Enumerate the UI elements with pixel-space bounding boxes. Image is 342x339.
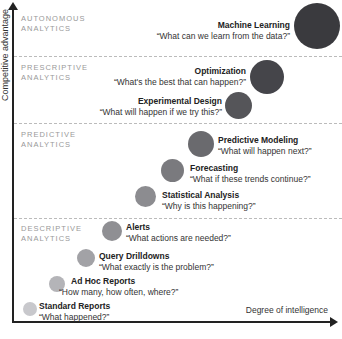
zone-divider [14, 56, 342, 57]
zone-divider [14, 218, 342, 219]
y-axis [12, 6, 14, 322]
stage-question: “How many, how often, where?” [59, 287, 178, 298]
zone-predictive: PREDICTIVEANALYTICS [21, 130, 76, 150]
stage-dot-forecasting [161, 159, 184, 182]
stage-title: Predictive Modeling [218, 135, 312, 146]
zone-label: AUTONOMOUS [21, 14, 85, 24]
stage-question: “What's the best that can happen?” [114, 77, 246, 88]
stage-ad-hoc-reports: Ad Hoc Reports“How many, how often, wher… [59, 276, 178, 298]
stage-experimental-design: Experimental Design“What will happen if … [100, 96, 222, 118]
stage-question: “What can we learn from the data?” [157, 31, 290, 42]
stage-forecasting: Forecasting“What if these trends continu… [190, 163, 310, 185]
stage-question: “What exactly is the problem?” [99, 262, 214, 273]
stage-dot-optimization [250, 60, 284, 94]
x-axis-label: Degree of intelligence [246, 305, 328, 315]
zone-label: ANALYTICS [21, 73, 88, 83]
stage-dot-query-drilldowns [77, 249, 95, 267]
stage-dot-predictive-modeling [188, 131, 214, 157]
zone-label: ANALYTICS [21, 234, 82, 244]
stage-statistical-analysis: Statistical Analysis“Why is this happeni… [162, 190, 256, 212]
stage-optimization: Optimization“What's the best that can ha… [114, 66, 246, 88]
stage-title: Alerts [126, 222, 231, 233]
zone-label: ANALYTICS [21, 24, 85, 34]
stage-dot-machine-learning [294, 3, 340, 49]
stage-dot-alerts [102, 221, 122, 241]
stage-title: Experimental Design [100, 96, 222, 107]
zone-autonomous: AUTONOMOUSANALYTICS [21, 14, 85, 34]
stage-question: “What actions are needed?” [126, 233, 231, 244]
stage-title: Ad Hoc Reports [71, 276, 178, 287]
stage-machine-learning: Machine Learning“What can we learn from … [157, 20, 290, 42]
y-axis-label: Competitive advantage [0, 0, 10, 110]
stage-question: “What will happen next?” [218, 146, 312, 157]
stage-question: “Why is this happening?” [162, 201, 256, 212]
stage-query-drilldowns: Query Drilldowns“What exactly is the pro… [99, 251, 214, 273]
stage-title: Query Drilldowns [99, 251, 214, 262]
stage-predictive-modeling: Predictive Modeling“What will happen nex… [218, 135, 312, 157]
stage-dot-standard-reports [23, 302, 37, 316]
stage-dot-statistical-analysis [135, 186, 156, 207]
stage-title: Forecasting [190, 163, 310, 174]
stage-standard-reports: Standard Reports“What happened?” [39, 301, 110, 323]
stage-title: Optimization [114, 66, 246, 77]
stage-title: Statistical Analysis [162, 190, 256, 201]
zone-label: ANALYTICS [21, 140, 76, 150]
stage-question: “What happened?” [39, 312, 110, 323]
stage-alerts: Alerts“What actions are needed?” [126, 222, 231, 244]
stage-title: Machine Learning [157, 20, 290, 31]
stage-question: “What if these trends continue?” [190, 174, 310, 185]
x-axis-arrow-icon [330, 317, 338, 327]
zone-descriptive: DESCRIPTIVEANALYTICS [21, 224, 82, 244]
stage-dot-experimental-design [225, 92, 252, 119]
zone-divider [14, 123, 342, 124]
stage-title: Standard Reports [39, 301, 110, 312]
zone-label: PRESCRIPTIVE [21, 63, 88, 73]
stage-question: “What will happen if we try this?” [100, 107, 222, 118]
zone-label: DESCRIPTIVE [21, 224, 82, 234]
zone-prescriptive: PRESCRIPTIVEANALYTICS [21, 63, 88, 83]
zone-label: PREDICTIVE [21, 130, 76, 140]
